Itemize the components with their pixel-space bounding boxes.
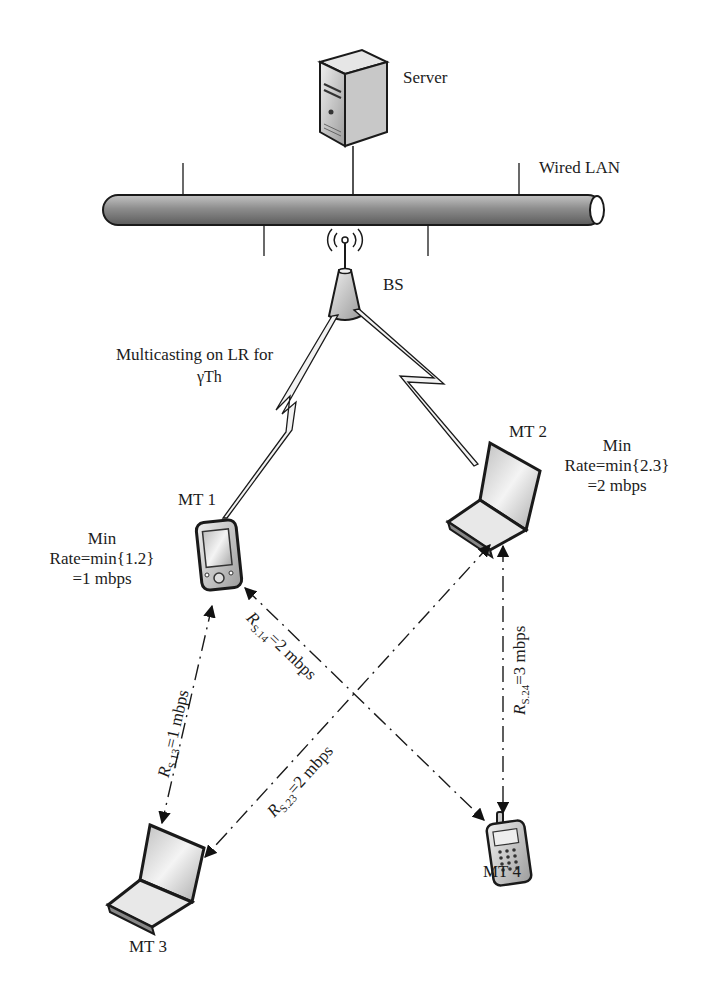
mt1-label: MT 1 — [178, 490, 216, 510]
wired-lan-label: Wired LAN — [539, 158, 620, 178]
link-rate-rs24: RS.24=3 mbps — [510, 626, 531, 715]
mt1-min-value: =1 mbps — [40, 569, 164, 589]
mt2-min-value: =2 mbps — [555, 476, 679, 496]
wired-lan-tube — [103, 195, 604, 225]
mt3-label: MT 3 — [129, 937, 167, 957]
mt2-laptop-icon — [448, 443, 540, 557]
link-mt2-mt3 — [205, 545, 490, 857]
mt2-label: MT 2 — [509, 422, 547, 442]
mt3-laptop-icon — [108, 825, 204, 934]
mt1-min-rate: Rate=min{1.2} — [40, 549, 164, 569]
mt2-min-title: Min — [555, 436, 679, 456]
mt1-pda-icon — [196, 519, 243, 591]
mt4-label: MT 4 — [483, 862, 521, 882]
link-mt1-mt4 — [245, 588, 484, 820]
wireless-link-bs-mt2 — [354, 309, 478, 466]
server-icon — [320, 50, 387, 146]
bs-label: BS — [383, 275, 404, 295]
mt1-min-title: Min — [40, 529, 164, 549]
mt2-min-rate: Rate=min{2.3} — [555, 456, 679, 476]
server-label: Server — [403, 68, 447, 88]
multicast-caption: Multicasting on LR for — [116, 345, 273, 365]
gamma-threshold-label: γTh — [197, 367, 222, 387]
